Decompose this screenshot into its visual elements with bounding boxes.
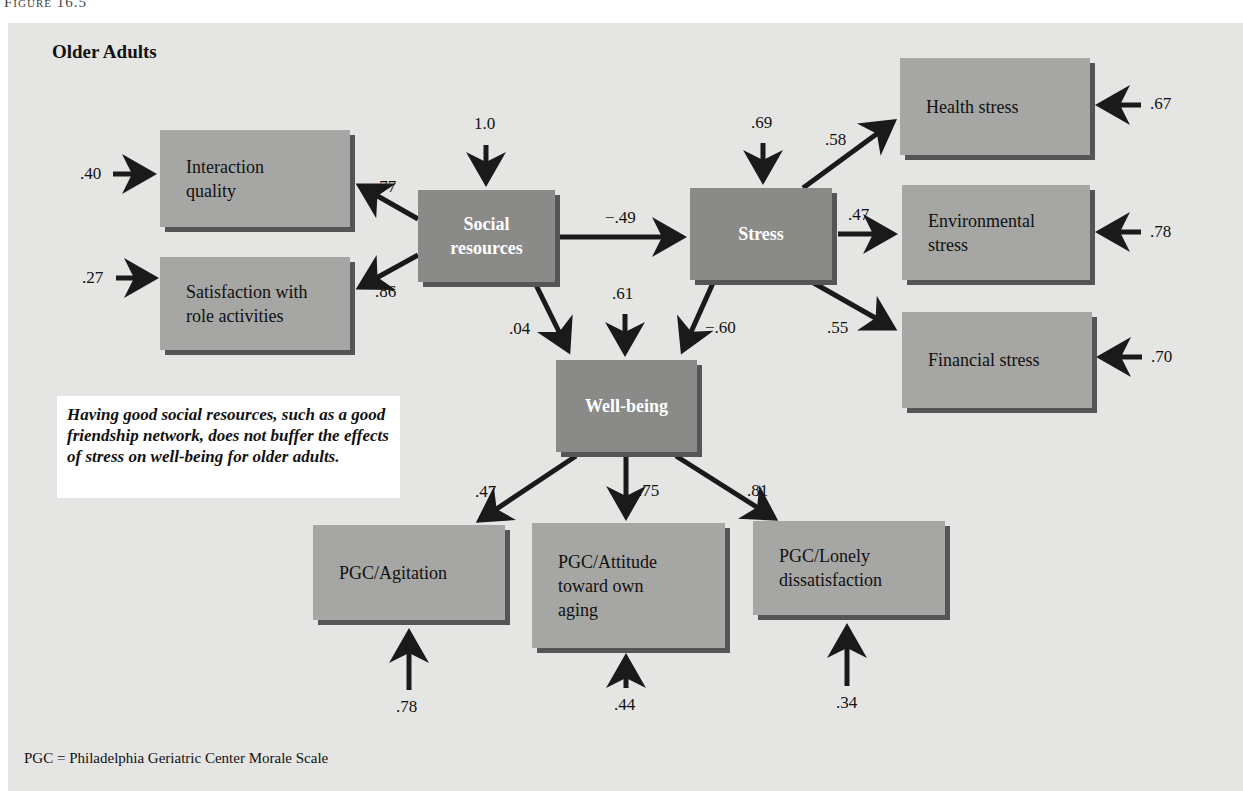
node-label: Stress — [738, 222, 784, 246]
error-label-interaction: .40 — [80, 164, 101, 184]
node-well-being: Well-being — [556, 360, 697, 452]
node-interaction-quality: Interaction quality — [160, 130, 350, 227]
arrow-stress-health — [803, 122, 893, 188]
node-label: Satisfaction with role activities — [186, 280, 307, 328]
node-health-stress: Health stress — [900, 58, 1090, 155]
error-label-attitude: .44 — [614, 695, 635, 715]
node-social-resources: Social resources — [418, 190, 555, 282]
disturbance-label-wellbeing: .61 — [612, 284, 633, 304]
error-label-health: .67 — [1150, 94, 1171, 114]
path-label-social-wellbeing: .04 — [509, 319, 530, 339]
error-label-satisfaction: .27 — [82, 268, 103, 288]
path-label-stress-wellbeing: −.60 — [705, 318, 736, 338]
arrow-stress-wellbeing — [683, 283, 713, 350]
path-label-stress-health: .58 — [825, 130, 846, 150]
node-label: Environmental stress — [928, 209, 1035, 257]
error-label-lonely: .34 — [836, 693, 857, 713]
node-pgc-agitation: PGC/Agitation — [313, 525, 505, 620]
path-label-stress-financial: .55 — [827, 318, 848, 338]
node-satisfaction-role-activities: Satisfaction with role activities — [160, 257, 350, 350]
path-label-wellbeing-attitude: .75 — [638, 481, 659, 501]
callout-note: Having good social resources, such as a … — [57, 396, 400, 498]
node-label: Financial stress — [928, 348, 1039, 372]
node-label: Interaction quality — [186, 155, 264, 203]
disturbance-label-stress: .69 — [751, 113, 772, 133]
node-label: PGC/Agitation — [339, 561, 447, 585]
node-pgc-attitude-toward-own-aging: PGC/Attitude toward own aging — [532, 523, 725, 648]
panel-title: Older Adults — [52, 41, 157, 63]
node-pgc-lonely-dissatisfaction: PGC/Lonely dissatisfaction — [753, 521, 945, 615]
path-label-social-stress: −.49 — [605, 208, 636, 228]
path-label-wellbeing-agitation: .47 — [475, 482, 496, 502]
node-label: PGC/Attitude toward own aging — [558, 550, 657, 622]
node-environmental-stress: Environmental stress — [902, 185, 1090, 280]
path-label-social-satisfaction: .86 — [375, 282, 396, 302]
path-label-stress-environmental: .47 — [848, 205, 869, 225]
node-label: Social resources — [450, 212, 522, 260]
path-label-social-interaction: .77 — [375, 177, 396, 197]
error-label-environmental: .78 — [1150, 222, 1171, 242]
node-stress: Stress — [690, 188, 832, 280]
arrow-stress-financial — [812, 282, 893, 328]
path-label-wellbeing-lonely: .81 — [747, 481, 768, 501]
disturbance-label-social: 1.0 — [474, 114, 495, 134]
error-label-financial: .70 — [1151, 347, 1172, 367]
error-label-agitation: .78 — [396, 697, 417, 717]
node-financial-stress: Financial stress — [902, 312, 1092, 408]
node-label: PGC/Lonely dissatisfaction — [779, 544, 882, 592]
footnote: PGC = Philadelphia Geriatric Center Mora… — [24, 750, 328, 767]
node-label: Health stress — [926, 95, 1018, 119]
arrow-social-wellbeing — [536, 285, 568, 350]
node-label: Well-being — [585, 394, 668, 418]
